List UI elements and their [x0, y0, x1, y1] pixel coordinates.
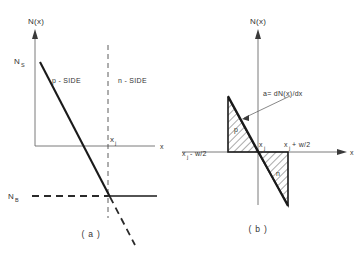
panel-b-center-tick-subscript: j	[263, 145, 265, 151]
panel-a-x-axis-label: x	[160, 143, 164, 150]
panel-b: N(x) x a= dN(x)/dx x j - w/2 x j x j + w…	[180, 0, 361, 261]
panel-a: N(x) x N S N B x j p - SIDE n - SIDE ( a…	[0, 0, 180, 261]
panel-b-left-tick-subscript: j	[186, 154, 188, 160]
panel-b-p-region-label: p	[234, 126, 238, 134]
panel-b-n-region-label: n	[276, 170, 280, 177]
panel-a-n-side-label: n - SIDE	[118, 77, 147, 84]
panel-a-nb-label: N	[8, 192, 14, 201]
panel-a-y-axis-arrowhead	[32, 29, 38, 39]
panel-b-left-tick-label: x	[182, 150, 186, 157]
panel-a-xj-label: x	[110, 135, 114, 144]
panel-b-annotation-arrowhead	[242, 115, 249, 121]
panel-b-y-axis-label: N(x)	[250, 17, 266, 26]
panel-b-x-axis-label: x	[350, 149, 354, 156]
panel-b-right-tick-subscript: j	[288, 145, 290, 151]
panel-b-y-axis-arrowhead	[255, 29, 261, 39]
panel-b-annotation-leader	[244, 96, 290, 118]
panel-a-ns-label: N	[14, 57, 20, 66]
panel-a-xj-subscript: j	[114, 140, 116, 146]
panel-b-slope-annotation: a= dN(x)/dx	[263, 90, 303, 98]
panel-a-p-side-label: p - SIDE	[52, 77, 81, 85]
panel-a-caption: ( a )	[81, 229, 100, 239]
panel-a-y-axis-label: N(x)	[28, 17, 44, 26]
figure-container: N(x) x N S N B x j p - SIDE n - SIDE ( a…	[0, 0, 361, 261]
panel-b-x-axis-arrowhead	[337, 149, 347, 155]
panel-a-ns-subscript: S	[21, 62, 25, 68]
panel-a-nb-subscript: B	[15, 197, 19, 203]
panel-b-left-tick-suffix: - w/2	[190, 150, 207, 157]
panel-b-right-tick-suffix: + w/2	[292, 141, 310, 148]
panel-a-profile-extrapolation	[110, 197, 135, 245]
panel-b-right-tick-label: x	[284, 141, 288, 148]
panel-b-caption: ( b )	[248, 224, 267, 234]
panel-b-center-tick-label: x	[259, 141, 263, 148]
